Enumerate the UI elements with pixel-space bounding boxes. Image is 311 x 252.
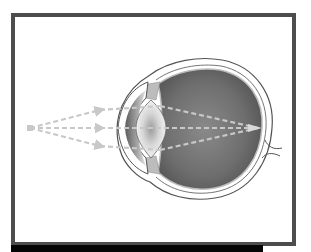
eye-diagram (0, 0, 311, 252)
light-ray-bottom (30, 128, 100, 146)
light-source-point (27, 125, 33, 131)
bottom-bar (11, 245, 263, 252)
light-ray-top (30, 110, 100, 128)
